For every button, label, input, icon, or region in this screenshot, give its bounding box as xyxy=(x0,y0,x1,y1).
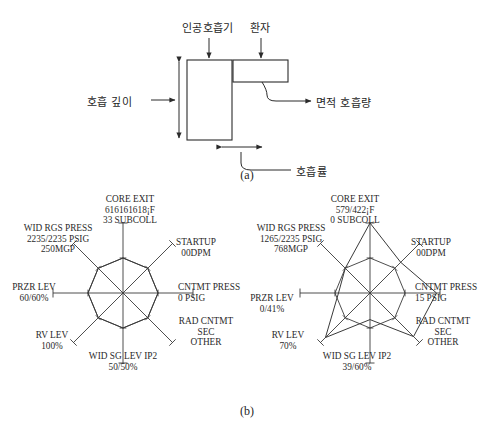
label-line: 579/422¡F xyxy=(303,205,407,216)
label-line: PRZR LEV xyxy=(238,293,306,304)
right-axis-label-core-exit: CORE EXIT 579/422¡F 0 SUBCOLL xyxy=(303,194,407,226)
label-line: OTHER xyxy=(404,337,482,348)
ventilator-box xyxy=(187,60,232,140)
figure-page: 인공호흡기 환자 호흡 깊이 면적 호흡량 호흡률 (a) CORE EXIT … xyxy=(0,0,494,441)
label-line: CNTMT PRESS xyxy=(415,282,493,293)
label-line: RAD CNTMT xyxy=(404,316,482,327)
label-line: 2235/2235 PSIG xyxy=(0,234,116,245)
label-line: SEC xyxy=(168,327,244,338)
left-axis-label-przr-lev: PRZR LEV 60/60% xyxy=(0,282,68,303)
label-line: 1265/2235 PSIG xyxy=(233,234,349,245)
right-axis-label-wid-sg-lev-ip2: WID SG LEV IP2 39/60% xyxy=(300,351,414,372)
left-axis-label-wid-rgs-press: WID RGS PRESS 2235/2235 PSIG 250MGP xyxy=(0,223,116,255)
label-line: WID SG LEV IP2 xyxy=(66,351,180,362)
right-axis-label-wid-rgs-press: WID RGS PRESS 1265/2235 PSIG 768MGP xyxy=(233,223,349,255)
label-line: RAD CNTMT xyxy=(168,316,244,327)
label-line: 70% xyxy=(258,341,318,352)
label-line: SEC xyxy=(404,327,482,338)
label-line: WID RGS PRESS xyxy=(233,223,349,234)
label-line: OTHER xyxy=(168,337,244,348)
right-axis-label-przr-lev: PRZR LEV 0/41% xyxy=(238,293,306,314)
right-axis-label-cntmt-press: CNTMT PRESS 15 PSIG xyxy=(415,282,493,303)
panel-a-caption: (a) xyxy=(0,168,494,183)
left-axis-label-wid-sg-lev-ip2: WID SG LEV IP2 50/50% xyxy=(66,351,180,372)
label-line: RV LEV xyxy=(258,330,318,341)
panel-b-radar-charts: CORE EXIT 616161618¡F 33 SUBCOLL WID RGS… xyxy=(0,190,494,441)
label-line: WID RGS PRESS xyxy=(0,223,116,234)
area-tidal-volume-label: 면적 호흡량 xyxy=(316,94,371,110)
breath-depth-label: 호흡 깊이 xyxy=(87,93,132,109)
right-axis-label-rv-lev: RV LEV 70% xyxy=(258,330,318,351)
label-line: STARTUP xyxy=(398,237,464,248)
label-line: CNTMT PRESS xyxy=(178,282,250,293)
label-line: 250MGP xyxy=(0,244,116,255)
left-axis-label-rv-lev: RV LEV 100% xyxy=(22,330,82,351)
label-line: WID SG LEV IP2 xyxy=(300,351,414,362)
label-line: PRZR LEV xyxy=(0,282,68,293)
label-line: 15 PSIG xyxy=(415,293,493,304)
left-axis-label-core-exit: CORE EXIT 616161618¡F 33 SUBCOLL xyxy=(75,194,185,226)
label-line: 50/50% xyxy=(66,362,180,373)
label-line: 768MGP xyxy=(233,244,349,255)
ventilator-label: 인공호흡기 xyxy=(182,19,234,35)
label-line: 00DPM xyxy=(398,248,464,259)
left-axis-label-startup: STARTUP 00DPM xyxy=(163,237,229,258)
label-line: STARTUP xyxy=(163,237,229,248)
label-line: 60/60% xyxy=(0,293,68,304)
label-line: 00DPM xyxy=(163,248,229,259)
label-line: CORE EXIT xyxy=(75,194,185,205)
label-line: 616161618¡F xyxy=(75,205,185,216)
panel-a-ventilator-diagram: 인공호흡기 환자 호흡 깊이 면적 호흡량 호흡률 (a) xyxy=(0,0,494,190)
label-line: 0/41% xyxy=(238,304,306,315)
panel-a-drawing xyxy=(0,0,494,190)
area-tidal-volume-leader xyxy=(262,82,311,101)
right-axis-label-startup: STARTUP 00DPM xyxy=(398,237,464,258)
panel-b-caption: (b) xyxy=(0,404,494,419)
label-line: RV LEV xyxy=(22,330,82,341)
label-line: CORE EXIT xyxy=(303,194,407,205)
label-line: 100% xyxy=(22,341,82,352)
label-line: 39/60% xyxy=(300,362,414,373)
left-axis-label-rad-cntmt: RAD CNTMT SEC OTHER xyxy=(168,316,244,348)
right-axis-label-rad-cntmt: RAD CNTMT SEC OTHER xyxy=(404,316,482,348)
patient-box xyxy=(233,60,288,82)
patient-label: 환자 xyxy=(250,19,271,35)
